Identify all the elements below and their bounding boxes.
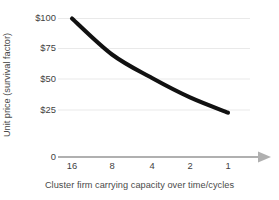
x-axis-title: Cluster firm carrying capacity over time… (0, 180, 279, 190)
y-tick-label-50: $50 (12, 73, 56, 84)
y-tick-label-75: $75 (12, 42, 56, 53)
data-series-unit-price (72, 19, 228, 113)
x-tick-label-16: 16 (60, 160, 84, 171)
y-axis-title-text: Unit price (survival factor) (2, 33, 12, 137)
chart-container: $100 $75 $50 $25 0 16 8 4 2 1 Cluster fi… (0, 0, 279, 200)
y-tick-label-25: $25 (12, 104, 56, 115)
series-line-unit-price (72, 19, 228, 113)
x-axis-arrow-icon (258, 152, 271, 163)
x-tick-label-8: 8 (100, 160, 124, 171)
x-tick-label-1: 1 (216, 160, 240, 171)
x-tick-label-4: 4 (140, 160, 164, 171)
x-tick-label-2: 2 (178, 160, 202, 171)
y-tick-label-0: 0 (12, 151, 56, 162)
y-tick-label-100: $100 (12, 12, 56, 23)
